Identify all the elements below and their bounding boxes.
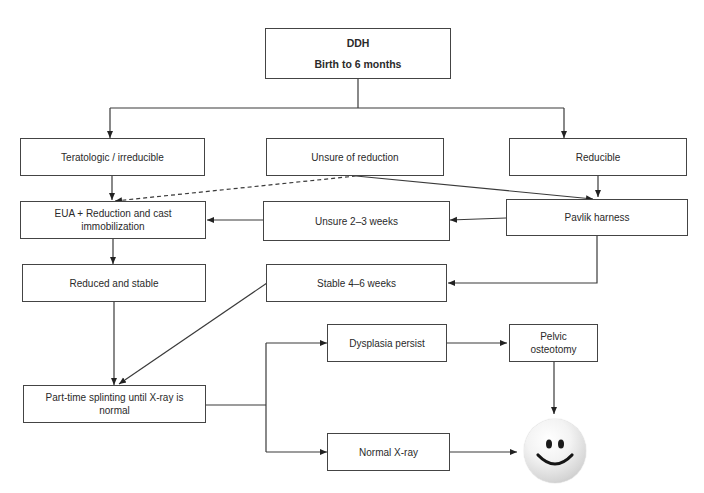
node-pelvic-osteotomy: Pelvic osteotomy [509, 324, 598, 362]
node-label: Reducible [576, 151, 620, 164]
node-part-time-splinting: Part-time splinting until X-ray is norma… [23, 385, 206, 423]
node-eua-reduction-cast: EUA + Reduction and cast immobilization [20, 201, 206, 239]
node-label: Unsure 2–3 weeks [315, 215, 398, 228]
node-label: EUA + Reduction and cast immobilization [43, 207, 183, 233]
node-label: Reduced and stable [70, 277, 159, 290]
node-unsure-2-3-weeks: Unsure 2–3 weeks [263, 201, 450, 241]
smiley-face-icon [524, 419, 586, 483]
node-pavlik-harness: Pavlik harness [506, 199, 688, 236]
node-teratologic: Teratologic / irreducible [20, 138, 205, 176]
node-label: Pavlik harness [564, 211, 629, 224]
node-reduced-and-stable: Reduced and stable [22, 264, 206, 302]
node-label: Stable 4–6 weeks [317, 277, 396, 290]
node-label: Dysplasia persist [349, 337, 425, 350]
root-subtitle: Birth to 6 months [315, 58, 402, 71]
node-label: Teratologic / irreducible [61, 151, 164, 164]
node-label: Unsure of reduction [311, 151, 398, 164]
node-label: Pelvic osteotomy [524, 330, 583, 356]
node-stable-4-6-weeks: Stable 4–6 weeks [266, 264, 447, 302]
node-ddh-root: DDH Birth to 6 months [265, 28, 451, 79]
root-title: DDH [347, 37, 370, 50]
node-unsure-of-reduction: Unsure of reduction [266, 138, 444, 176]
node-label: Normal X-ray [359, 446, 418, 459]
node-dysplasia-persist: Dysplasia persist [327, 324, 447, 362]
node-normal-xray: Normal X-ray [327, 433, 450, 471]
node-label: Part-time splinting until X-ray is norma… [38, 391, 191, 417]
node-reducible: Reducible [509, 138, 687, 176]
